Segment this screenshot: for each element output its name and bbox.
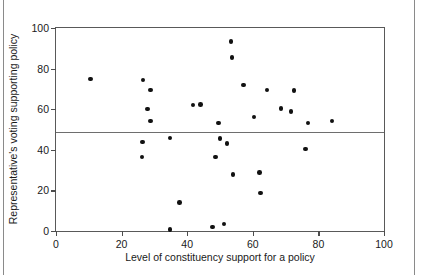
data-point xyxy=(168,136,173,141)
y-axis-tick-label: 60 xyxy=(37,104,49,115)
figure-border-left xyxy=(3,0,4,275)
data-point xyxy=(140,140,145,145)
x-axis-tick-mark xyxy=(318,231,319,236)
data-point xyxy=(222,222,227,227)
x-axis-tick-label: 60 xyxy=(247,239,259,250)
x-axis-tick-label: 100 xyxy=(375,239,393,250)
y-axis-tick-mark xyxy=(51,28,56,29)
data-point xyxy=(230,55,235,60)
y-axis-tick-mark xyxy=(51,190,56,191)
data-point xyxy=(141,78,146,83)
data-point xyxy=(257,170,262,175)
data-point xyxy=(306,121,311,126)
y-axis-tick-label: 20 xyxy=(37,185,49,196)
x-axis-tick-label: 20 xyxy=(116,239,128,250)
data-point xyxy=(210,225,215,230)
data-point xyxy=(292,88,297,93)
data-point xyxy=(241,83,246,88)
x-axis-tick-mark xyxy=(187,231,188,236)
data-point xyxy=(218,136,223,141)
data-point xyxy=(191,103,196,108)
data-point xyxy=(148,88,153,93)
plot-area: 020406080100020406080100 xyxy=(55,27,385,232)
data-point xyxy=(213,155,218,160)
x-axis-title: Level of constituency support for a poli… xyxy=(55,252,385,264)
data-point xyxy=(258,191,263,196)
data-point xyxy=(330,119,335,124)
data-point xyxy=(148,119,153,124)
y-axis-tick-label: 0 xyxy=(43,226,49,237)
data-point xyxy=(216,121,221,126)
y-axis-tick-mark xyxy=(51,109,56,110)
data-point xyxy=(279,106,284,111)
y-axis-tick-label: 40 xyxy=(37,145,49,156)
data-point xyxy=(231,172,236,177)
scatter-plot-figure: 020406080100020406080100 Level of consti… xyxy=(0,0,422,275)
data-point xyxy=(225,141,230,146)
data-point xyxy=(198,102,203,107)
reference-line-horizontal xyxy=(56,132,384,133)
y-axis-tick-mark xyxy=(51,69,56,70)
x-axis-tick-mark xyxy=(253,231,254,236)
y-axis-tick-label: 100 xyxy=(31,23,49,34)
x-axis-tick-mark xyxy=(122,231,123,236)
data-point xyxy=(289,109,294,114)
data-point xyxy=(88,77,93,82)
x-axis-tick-label: 80 xyxy=(313,239,325,250)
y-axis-tick-label: 80 xyxy=(37,63,49,74)
figure-border-right xyxy=(414,0,415,275)
data-point xyxy=(229,39,234,44)
data-point xyxy=(168,227,173,232)
x-axis-tick-mark xyxy=(384,231,385,236)
y-axis-title: Representative's voting supporting polic… xyxy=(8,27,22,232)
x-axis-tick-label: 0 xyxy=(53,239,59,250)
x-axis-tick-label: 40 xyxy=(181,239,193,250)
data-point xyxy=(140,155,145,160)
data-point xyxy=(252,115,257,120)
data-point xyxy=(303,147,308,152)
data-point xyxy=(177,200,182,205)
x-axis-tick-mark xyxy=(56,231,57,236)
data-point xyxy=(145,107,150,112)
y-axis-tick-mark xyxy=(51,150,56,151)
data-point xyxy=(265,88,270,93)
